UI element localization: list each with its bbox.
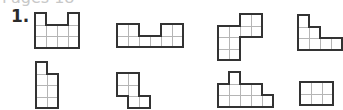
outline-edge bbox=[297, 37, 299, 51]
outline-edge bbox=[116, 35, 118, 49]
outline-edge bbox=[149, 95, 151, 109]
outline-edge bbox=[261, 25, 263, 39]
outline-edge bbox=[182, 35, 184, 49]
outline-edge bbox=[149, 35, 162, 37]
outline-edge bbox=[35, 96, 37, 110]
outline-edge bbox=[217, 48, 219, 62]
outline-edge bbox=[332, 93, 334, 107]
outline-edge bbox=[272, 94, 274, 108]
outline-edge bbox=[78, 35, 80, 49]
outline-edge bbox=[57, 96, 59, 110]
question-number: 1. bbox=[11, 6, 29, 26]
outline-edge bbox=[116, 84, 118, 98]
outline-edge bbox=[56, 24, 69, 26]
outline-edge bbox=[34, 35, 36, 49]
outline-edge bbox=[127, 95, 129, 109]
outline-edge bbox=[239, 48, 241, 62]
outline-edge bbox=[228, 25, 241, 27]
outline-edge bbox=[217, 94, 219, 108]
outline-edge bbox=[299, 93, 301, 107]
